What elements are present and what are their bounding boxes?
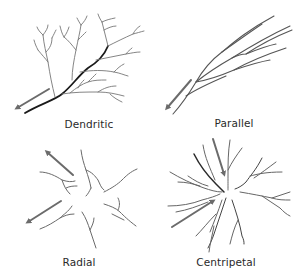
flow-direction-arrow-icon: [172, 201, 213, 227]
dendritic-pattern: [17, 14, 144, 113]
flow-direction-arrow-icon: [167, 80, 191, 108]
label-radial: Radial: [62, 256, 95, 268]
drainage-patterns-diagram: [0, 0, 297, 276]
flow-direction-arrow-icon: [28, 201, 61, 222]
flow-direction-arrow-icon: [213, 139, 224, 174]
parallel-pattern: [167, 16, 292, 114]
centripetal-pattern: [168, 139, 290, 252]
label-dendritic: Dendritic: [65, 118, 114, 130]
radial-pattern: [28, 150, 137, 248]
label-centripetal: Centripetal: [196, 256, 256, 268]
flow-direction-arrow-icon: [17, 89, 49, 108]
flow-direction-arrow-icon: [47, 152, 73, 175]
label-parallel: Parallel: [214, 117, 253, 129]
